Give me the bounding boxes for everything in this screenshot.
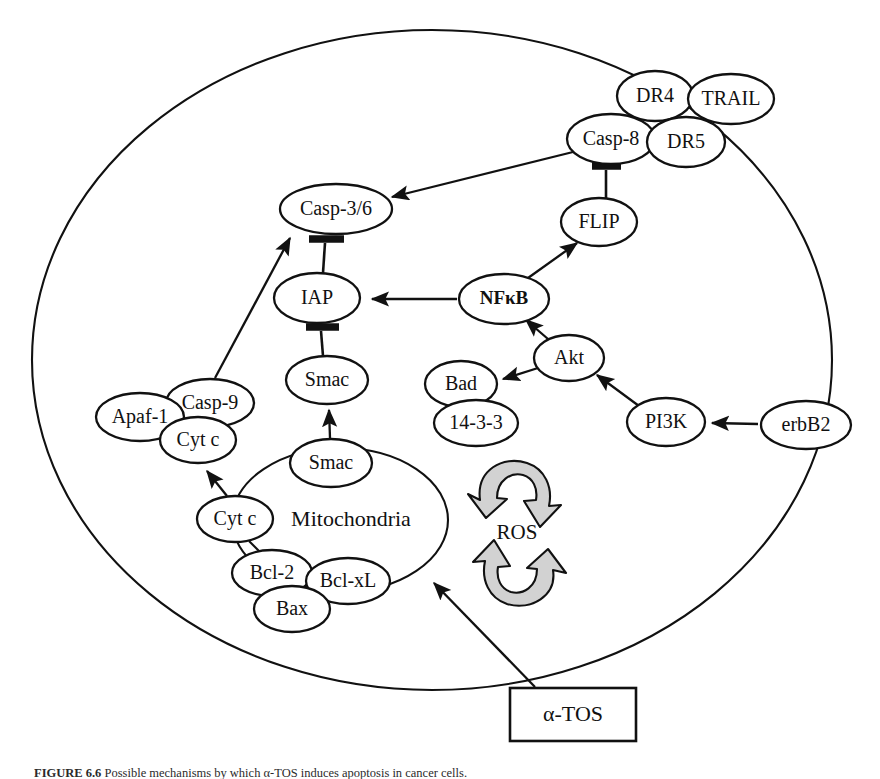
node-akt[interactable]: Akt xyxy=(534,335,604,381)
node-dr5[interactable]: DR5 xyxy=(647,117,725,167)
edge-smac-mito-to-smac xyxy=(329,410,330,438)
node-flip[interactable]: FLIP xyxy=(561,198,637,246)
figure-caption-prefix: FIGURE 6.6 xyxy=(34,766,101,779)
node-cytc-apoptosome-shape[interactable] xyxy=(160,417,236,463)
node-dr5-shape[interactable] xyxy=(647,117,725,167)
node-nfkb[interactable]: NFκB xyxy=(459,274,549,324)
ros-label: ROS xyxy=(497,520,538,544)
alpha-tos-box[interactable]: α-TOS xyxy=(510,688,636,741)
node-erbb2-shape[interactable] xyxy=(761,401,851,449)
mitochondria-label: Mitochondria xyxy=(291,506,411,531)
node-cytc-mitochondrial-shape[interactable] xyxy=(197,496,273,542)
node-pi3k[interactable]: PI3K xyxy=(627,398,705,446)
figure-caption: FIGURE 6.6 Possible mechanisms by which … xyxy=(34,765,846,779)
edge-erbb2-to-pi3k xyxy=(712,423,758,424)
node-erbb2[interactable]: erbB2 xyxy=(761,401,851,449)
node-bax[interactable]: Bax xyxy=(254,586,330,632)
node-smac-mitochondrial[interactable]: Smac xyxy=(290,439,372,487)
node-casp36[interactable]: Casp-3/6 xyxy=(280,184,392,234)
node-casp8-shape[interactable] xyxy=(567,114,655,164)
figure-root: ROS Mitochondria DR4 TRAIL Casp-8 DR5 Ca… xyxy=(0,0,880,779)
node-smac-cytosolic-shape[interactable] xyxy=(286,356,368,404)
node-14-3-3-shape[interactable] xyxy=(434,400,518,446)
node-akt-shape[interactable] xyxy=(534,335,604,381)
node-casp8[interactable]: Casp-8 xyxy=(567,114,655,164)
node-cytc-apoptosome[interactable]: Cyt c xyxy=(160,417,236,463)
node-dr4[interactable]: DR4 xyxy=(617,71,693,121)
node-cytc-mitochondrial[interactable]: Cyt c xyxy=(197,496,273,542)
node-smac-cytosolic[interactable]: Smac xyxy=(286,356,368,404)
alpha-tos-label: α-TOS xyxy=(543,701,603,726)
node-flip-shape[interactable] xyxy=(561,198,637,246)
node-iap[interactable]: IAP xyxy=(274,273,360,323)
node-trail[interactable]: TRAIL xyxy=(688,74,774,124)
node-bax-shape[interactable] xyxy=(254,586,330,632)
node-casp36-shape[interactable] xyxy=(280,184,392,234)
node-trail-shape[interactable] xyxy=(688,74,774,124)
node-iap-shape[interactable] xyxy=(274,273,360,323)
node-pi3k-shape[interactable] xyxy=(627,398,705,446)
node-nfkb-shape[interactable] xyxy=(459,274,549,324)
node-dr4-shape[interactable] xyxy=(617,71,693,121)
node-smac-mitochondrial-shape[interactable] xyxy=(290,439,372,487)
figure-caption-text: Possible mechanisms by which α-TOS induc… xyxy=(105,766,468,779)
pathway-diagram: ROS Mitochondria DR4 TRAIL Casp-8 DR5 Ca… xyxy=(0,0,880,779)
node-14-3-3[interactable]: 14-3-3 xyxy=(434,400,518,446)
